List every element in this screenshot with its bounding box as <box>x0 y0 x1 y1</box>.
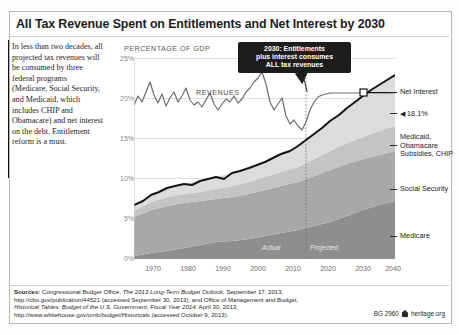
y-axis-title: PERCENTAGE OF GDP <box>124 44 210 53</box>
callout-box: 2030: Entitlements plus interest consume… <box>238 42 351 73</box>
sources-line4: http://www.whitehouse.gov/omb/budget/His… <box>14 311 228 318</box>
heritage-site-label: heritage.org <box>411 310 445 317</box>
series-label-medicaid-chip: Medicaid, Obamacare Subsidies, CHIP <box>400 133 458 159</box>
series-label-medicare: Medicare <box>400 232 430 241</box>
sources-line1a: Congressional Budget Office, <box>40 288 123 295</box>
pct-value-label: 18.1% <box>407 109 428 118</box>
right-tick-net-interest <box>390 92 397 93</box>
x-tick-1970: 1970 <box>138 265 168 272</box>
x-tick-1990: 1990 <box>208 265 238 272</box>
x-tick-2040: 2040 <box>378 265 408 272</box>
footer-branding: BG 2960 heritage.org <box>374 310 445 317</box>
intersection-marker <box>360 89 367 96</box>
infographic-page: All Tax Revenue Spent on Entitlements an… <box>0 0 459 335</box>
right-tick-social-security <box>390 189 397 190</box>
footer-divider <box>10 285 449 286</box>
title-divider <box>10 36 449 37</box>
revenues-label: REVENUES <box>196 88 240 97</box>
right-tick-medicare <box>390 236 397 237</box>
projected-label: Projected <box>310 244 338 251</box>
sources-line3b: April 30, 2013, <box>197 303 238 310</box>
sources-line1-italic: The 2013 Long-Term Budget Outlook, <box>123 288 225 295</box>
right-tick-medicaid <box>390 145 397 146</box>
sources-block: Sources: Congressional Budget Office, Th… <box>14 288 344 318</box>
intro-paragraph: In less than two decades, all projected … <box>12 42 104 148</box>
callout-line-3: ALL tax revenues <box>242 61 347 69</box>
stacked-area-chart <box>134 58 395 259</box>
sources-line3-italic: Historical Tables: Budget of the U.S. Go… <box>14 303 197 310</box>
x-tick-1980: 1980 <box>173 265 203 272</box>
pct-arrow-icon: ◀ <box>400 109 405 118</box>
actual-label: Actual <box>262 244 280 251</box>
x-tick-2010: 2010 <box>278 265 308 272</box>
blurb-rule <box>8 40 9 178</box>
building-icon <box>402 310 408 317</box>
y-tick-10: 10% <box>112 175 134 182</box>
y-tick-0: 0% <box>112 255 134 262</box>
y-tick-15: 15% <box>112 135 134 142</box>
series-label-social-security: Social Security <box>400 185 448 194</box>
x-tick-2020: 2020 <box>313 265 343 272</box>
right-tick-pct <box>390 113 397 114</box>
sources-label: Sources: <box>14 288 40 295</box>
page-title: All Tax Revenue Spent on Entitlements an… <box>16 17 436 31</box>
sources-line1b: September 17, 2013, <box>225 288 284 295</box>
chart-plot-area: Actual Projected <box>134 58 395 259</box>
report-code: BG 2960 <box>374 310 399 317</box>
x-tick-2000: 2000 <box>243 265 273 272</box>
y-tick-25: 25% <box>112 55 134 62</box>
callout-line-2: plus interest consumes <box>242 53 347 61</box>
x-tick-2030: 2030 <box>348 265 378 272</box>
y-tick-20: 20% <box>112 95 134 102</box>
sources-line2: http://cbo.gov/publication/44521 (access… <box>14 296 298 303</box>
y-tick-5: 5% <box>112 215 134 222</box>
callout-line-1: 2030: Entitlements <box>242 45 347 53</box>
series-label-net-interest: Net Interest <box>400 88 438 97</box>
